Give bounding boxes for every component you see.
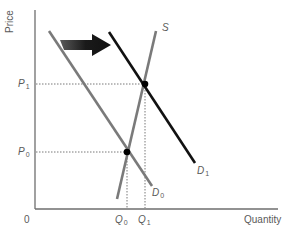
curve-label-s: S: [162, 23, 169, 33]
quantity-label-q0: Q0: [115, 215, 128, 226]
curve-label-s-symbol: S: [162, 22, 169, 33]
curve-label-d0-symbol: D: [152, 187, 159, 198]
equilibrium-point-e0: [124, 149, 131, 156]
price-label-p0-symbol: P: [18, 146, 25, 157]
quantity-label-q1-symbol: Q: [138, 214, 146, 225]
diagram-canvas: [0, 0, 296, 239]
curve-label-d1: D1: [197, 166, 209, 177]
price-label-p1-symbol: P: [18, 78, 25, 89]
price-label-p0: P0: [18, 147, 30, 158]
x-axis-label: Quantity: [244, 215, 281, 225]
equilibrium-point-e1: [142, 81, 149, 88]
quantity-label-q0-symbol: Q: [115, 214, 123, 225]
price-label-p1-subscript: 1: [26, 83, 30, 90]
curve-label-d0-subscript: 0: [160, 192, 164, 199]
quantity-label-q1: Q1: [138, 215, 151, 226]
quantity-label-q1-subscript: 1: [147, 219, 151, 226]
curve-label-d1-symbol: D: [197, 165, 204, 176]
shift-arrow-icon: [60, 34, 111, 56]
origin-label: 0: [24, 215, 30, 225]
curve-label-d1-subscript: 1: [205, 170, 209, 177]
price-label-p0-subscript: 0: [26, 151, 30, 158]
demand-curve-d0: [49, 31, 152, 186]
supply-curve-s: [117, 31, 156, 199]
price-label-p1: P1: [18, 79, 30, 90]
y-axis-label: Price: [4, 10, 15, 33]
curve-label-d0: D0: [152, 188, 164, 199]
quantity-label-q0-subscript: 0: [124, 219, 128, 226]
